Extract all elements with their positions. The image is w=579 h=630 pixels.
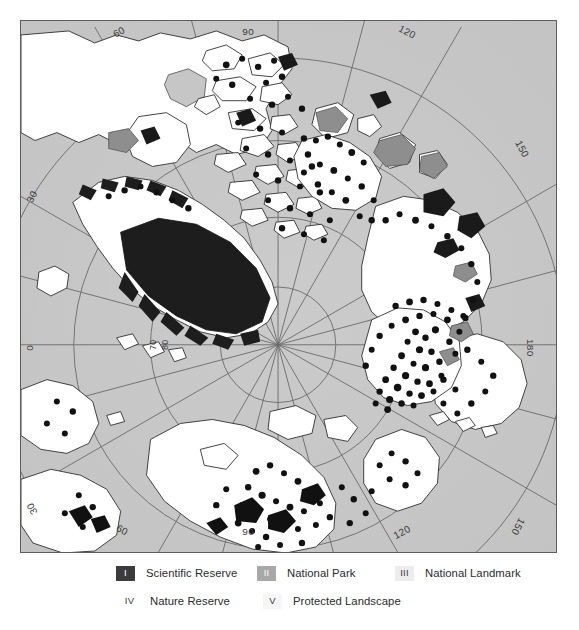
svg-text:0: 0 — [24, 345, 35, 351]
legend-item-scientific-reserve[interactable]: I Scientific Reserve — [116, 562, 237, 584]
legend-item-nature-reserve[interactable]: IV Nature Reserve — [120, 590, 230, 612]
legend-swatch-scientific-reserve: I — [116, 566, 135, 581]
svg-text:180: 180 — [525, 339, 536, 357]
legend-item-national-landmark[interactable]: III National Landmark — [395, 562, 521, 584]
legend-row: I Scientific Reserve II National Park II… — [20, 562, 557, 584]
legend-item-national-park[interactable]: II National Park — [257, 562, 355, 584]
svg-text:90: 90 — [242, 26, 254, 37]
map-legend: I Scientific Reserve II National Park II… — [20, 560, 557, 622]
legend-label-national-landmark: National Landmark — [425, 567, 521, 579]
svg-text:90: 90 — [242, 526, 254, 537]
arctic-protected-areas-figure: 30 0 30 60 90 120 150 180 150 120 90 60 … — [0, 0, 579, 630]
legend-swatch-protected-landscape: V — [263, 594, 282, 609]
legend-row: IV Nature Reserve V Protected Landscape — [20, 590, 557, 612]
legend-label-national-park: National Park — [287, 567, 355, 579]
legend-label-scientific-reserve: Scientific Reserve — [146, 567, 237, 579]
svg-text:80: 80 — [160, 340, 170, 350]
map-panel[interactable]: 30 0 30 60 90 120 150 180 150 120 90 60 … — [20, 20, 557, 553]
legend-swatch-nature-reserve: IV — [120, 594, 139, 609]
legend-item-protected-landscape[interactable]: V Protected Landscape — [263, 590, 401, 612]
parallel-labels: 70 80 — [148, 340, 170, 350]
legend-swatch-national-park: II — [257, 566, 276, 581]
legend-label-protected-landscape: Protected Landscape — [293, 595, 401, 607]
svg-text:70: 70 — [148, 340, 158, 350]
legend-swatch-national-landmark: III — [395, 566, 414, 581]
legend-label-nature-reserve: Nature Reserve — [150, 595, 230, 607]
map-svg: 30 0 30 60 90 120 150 180 150 120 90 60 … — [21, 21, 556, 552]
